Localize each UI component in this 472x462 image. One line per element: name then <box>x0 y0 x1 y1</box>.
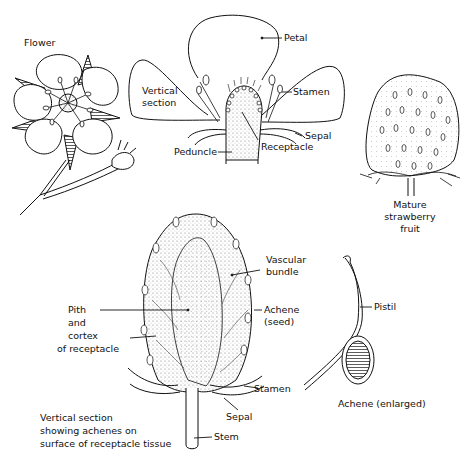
strawberry-anatomy-diagram: Flower Vertical section Petal Stamen Sep… <box>0 0 472 462</box>
label-pith-4: of receptacle <box>57 343 119 355</box>
achene-enlarged-caption: Achene (enlarged) <box>338 398 426 410</box>
mature-strawberry-illustration <box>360 75 460 196</box>
label-stamen-top: Stamen <box>293 86 330 98</box>
vertical-section-title-1: Vertical <box>142 85 178 97</box>
label-sepal-bottom: Sepal <box>226 411 252 423</box>
vertical-section-title-2: section <box>142 97 176 109</box>
label-receptacle: Receptacle <box>261 141 313 153</box>
label-pith-2: and <box>68 317 86 329</box>
flower-illustration <box>12 55 136 215</box>
label-vascular-2: bundle <box>266 266 299 278</box>
label-achene-2: (seed) <box>264 316 294 328</box>
flower-title: Flower <box>24 37 55 49</box>
label-pith-3: cortex <box>68 330 98 342</box>
fruit-section-caption-2: showing achenes on <box>40 425 137 437</box>
mature-fruit-caption-3: fruit <box>380 223 440 235</box>
fruit-section-caption-3: surface of receptacle tissue <box>40 438 171 450</box>
label-vascular-1: Vascular <box>266 254 306 266</box>
label-peduncle: Peduncle <box>174 146 217 158</box>
label-achene-1: Achene <box>264 304 299 316</box>
label-petal: Petal <box>284 32 307 44</box>
label-stamen-bottom: Stamen <box>254 383 291 395</box>
achene-enlarged-illustration <box>304 256 374 390</box>
mature-fruit-caption-2: strawberry <box>375 211 445 223</box>
mature-fruit-caption-1: Mature <box>380 199 440 211</box>
label-pistil: Pistil <box>374 301 396 313</box>
fruit-section-caption-1: Vertical section <box>40 412 113 424</box>
label-stem: Stem <box>214 431 239 443</box>
label-pith-1: Pith <box>68 304 86 316</box>
